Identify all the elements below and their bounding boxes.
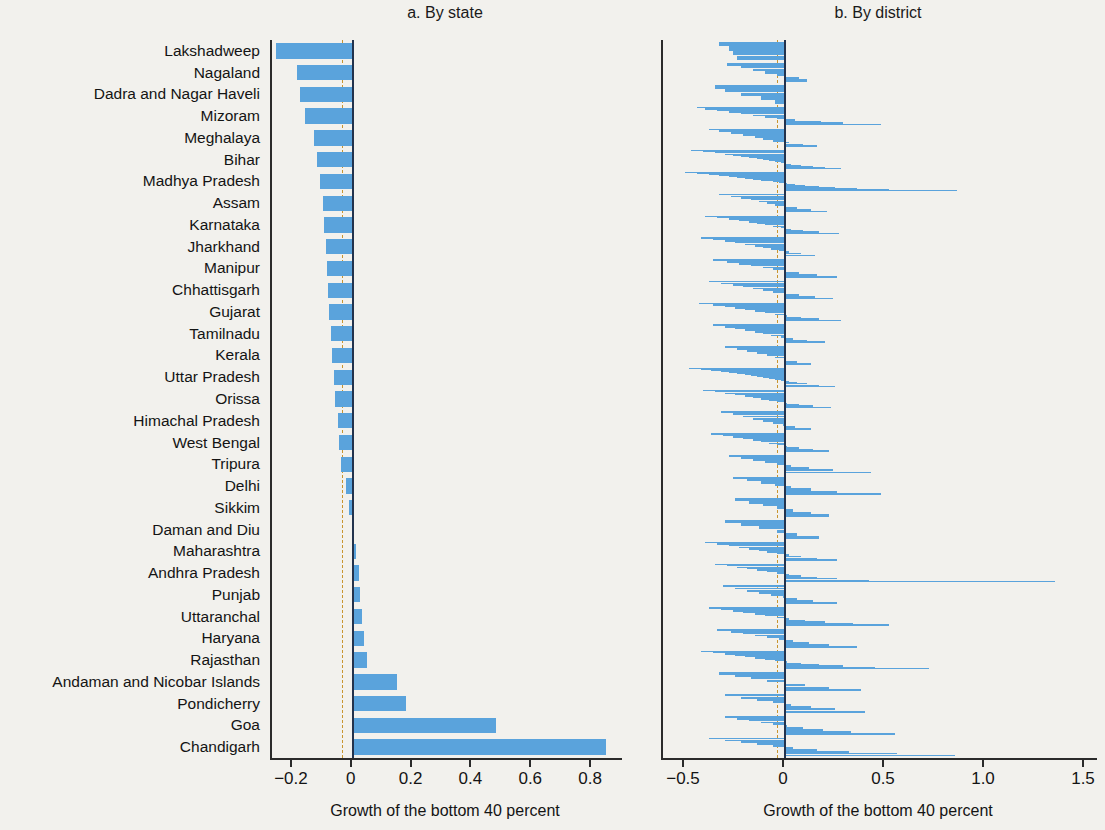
- x-axis-tick: [589, 758, 591, 767]
- bar: [324, 217, 352, 232]
- bar: [320, 174, 353, 189]
- x-axis-tick: [350, 758, 352, 767]
- category-label: Jharkhand: [0, 239, 264, 255]
- category-label: Himachal Pradesh: [0, 413, 264, 429]
- x-axis-tick-label: 0: [778, 769, 787, 789]
- district-bar: [785, 407, 831, 408]
- district-bar: [785, 255, 815, 256]
- bar: [353, 609, 363, 624]
- category-label: Orissa: [0, 391, 264, 407]
- bar: [331, 326, 353, 341]
- category-label: Andaman and Nicobar Islands: [0, 674, 264, 690]
- category-label: Assam: [0, 195, 264, 211]
- x-axis-tick: [882, 758, 884, 767]
- district-bar: [785, 320, 841, 321]
- bar: [314, 130, 352, 145]
- bar: [334, 370, 353, 385]
- district-bar: [785, 79, 807, 82]
- district-bar: [785, 145, 817, 147]
- category-label: Lakshadweep: [0, 43, 264, 59]
- category-label: Dadra and Nagar Haveli: [0, 86, 264, 102]
- district-bar: [785, 276, 837, 278]
- district-bar: [785, 233, 839, 234]
- district-bar: [785, 581, 1055, 582]
- x-axis-tick: [410, 758, 412, 767]
- x-axis-tick-label: 0.8: [578, 769, 602, 789]
- district-bar: [785, 646, 857, 648]
- bar: [353, 652, 367, 667]
- panel-a-plot-area: [270, 40, 622, 760]
- x-axis-tick-label: 1.0: [971, 769, 995, 789]
- district-bar: [785, 493, 881, 495]
- district-bar: [785, 298, 833, 300]
- bar: [335, 391, 352, 406]
- district-bar: [785, 755, 955, 757]
- category-label: Chandigarh: [0, 739, 264, 755]
- category-label: West Bengal: [0, 435, 264, 451]
- category-label: Pondicherry: [0, 696, 264, 712]
- panel-b-title: b. By district: [661, 4, 1095, 22]
- panel-a-axis-title: Growth of the bottom 40 percent: [270, 802, 620, 820]
- x-axis-tick-label: 1.5: [1071, 769, 1095, 789]
- district-bar: [737, 56, 785, 61]
- bar: [300, 87, 352, 102]
- panel-b-x-axis: Growth of the bottom 40 percent −0.500.5…: [661, 758, 1095, 828]
- x-axis-tick: [469, 758, 471, 767]
- category-label: Andhra Pradesh: [0, 565, 264, 581]
- bar: [332, 348, 352, 363]
- bar: [353, 631, 364, 646]
- district-bar: [785, 536, 819, 539]
- category-label: Mizoram: [0, 108, 264, 124]
- panel-a-x-axis: Growth of the bottom 40 percent −0.200.2…: [270, 758, 620, 828]
- panel-b-bars: [663, 40, 1097, 758]
- bar: [317, 152, 353, 167]
- district-bar: [767, 680, 785, 682]
- category-label: Uttar Pradesh: [0, 369, 264, 385]
- category-label: Daman and Diu: [0, 522, 264, 538]
- category-label: Maharashtra: [0, 543, 264, 559]
- category-label: Bihar: [0, 152, 264, 168]
- district-bar: [785, 124, 881, 125]
- category-label: Sikkim: [0, 500, 264, 516]
- x-axis-tick: [982, 758, 984, 767]
- category-label: Gujarat: [0, 304, 264, 320]
- category-label: Nagaland: [0, 65, 264, 81]
- x-axis-tick: [782, 758, 784, 767]
- category-label: Punjab: [0, 587, 264, 603]
- category-label: Meghalaya: [0, 130, 264, 146]
- category-label: Goa: [0, 717, 264, 733]
- bar: [353, 674, 397, 689]
- panel-a-bars: [272, 40, 622, 758]
- district-bar: [785, 428, 811, 430]
- x-axis-tick: [682, 758, 684, 767]
- zero-line: [784, 40, 786, 758]
- bar: [338, 413, 353, 428]
- bar: [328, 283, 353, 298]
- bar: [353, 696, 406, 711]
- bar: [276, 43, 352, 58]
- x-axis-tick-label: 0.5: [871, 769, 895, 789]
- figure-container: a. By state b. By district LakshadweepNa…: [0, 0, 1105, 830]
- panel-a-title: a. By state: [270, 4, 620, 22]
- bar: [353, 739, 606, 754]
- category-label: Karnataka: [0, 217, 264, 233]
- district-bar: [785, 711, 865, 713]
- category-label: Tripura: [0, 456, 264, 472]
- district-bar: [785, 363, 811, 365]
- category-label: Uttaranchal: [0, 609, 264, 625]
- district-bar: [785, 668, 929, 669]
- x-axis-tick-label: −0.2: [274, 769, 308, 789]
- category-label: Madhya Pradesh: [0, 173, 264, 189]
- category-label: Haryana: [0, 630, 264, 646]
- panel-b-axis-title: Growth of the bottom 40 percent: [661, 802, 1095, 820]
- district-bar: [785, 211, 827, 213]
- x-axis-tick: [529, 758, 531, 767]
- category-label: Delhi: [0, 478, 264, 494]
- category-label: Manipur: [0, 260, 264, 276]
- panel-b-plot-area: [661, 40, 1097, 760]
- x-axis-tick: [1082, 758, 1084, 767]
- bar: [353, 587, 360, 602]
- bar: [297, 65, 352, 80]
- district-bar: [785, 341, 825, 343]
- district-bar: [785, 689, 861, 691]
